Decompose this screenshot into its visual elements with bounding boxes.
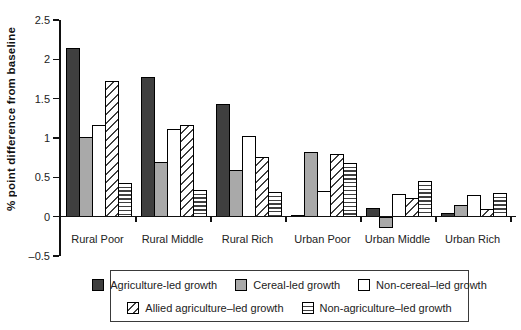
legend-label: Non-cereal–led growth [376, 279, 487, 291]
bar-hlines [193, 190, 207, 218]
y-tick-label: –0.5 [14, 250, 50, 262]
bar-white [167, 129, 181, 218]
y-tick-label: 0 [14, 211, 50, 223]
x-tick [360, 217, 362, 222]
x-tick [210, 217, 212, 222]
x-tick [435, 217, 437, 222]
x-category-label: Urban Poor [283, 233, 363, 245]
bar-white [92, 125, 106, 217]
plot-area: 2.521.510.50–0.5Rural PoorRural MiddleRu… [60, 20, 511, 256]
bar-solid-gray [379, 217, 393, 229]
legend-item: Non-cereal–led growth [358, 279, 487, 291]
bar-hlines [418, 181, 432, 217]
y-tick-label: 2 [14, 53, 50, 65]
y-axis-line [59, 20, 61, 256]
x-tick [285, 217, 287, 222]
legend: Agriculture-led growthCereal-led growthN… [110, 270, 469, 322]
legend-swatch-hlines-icon [302, 302, 314, 314]
legend-row-1: Agriculture-led growthCereal-led growthN… [111, 274, 468, 295]
bar-hlines [343, 163, 357, 217]
bar-white [242, 136, 256, 218]
legend-swatch-white-icon [358, 279, 370, 291]
bar-solid-dark [216, 104, 230, 217]
x-tick [510, 217, 512, 222]
y-tick [53, 137, 59, 139]
y-tick [53, 98, 59, 100]
legend-label: Agriculture-led growth [110, 279, 217, 291]
x-axis-line [59, 216, 516, 218]
legend-item: Agriculture-led growth [92, 279, 217, 291]
bar-diagonal [255, 157, 269, 218]
x-category-label: Urban Middle [358, 233, 438, 245]
bar-solid-dark [141, 77, 155, 217]
legend-row-2: Allied agriculture–led growthNon-agricul… [111, 297, 468, 318]
chart-figure: % point difference from baseline 2.521.5… [0, 0, 521, 330]
bar-solid-gray [229, 170, 243, 217]
y-tick [53, 59, 59, 61]
y-tick [53, 177, 59, 179]
y-tick-label: 1 [14, 132, 50, 144]
y-tick-label: 1.5 [14, 93, 50, 105]
bar-diagonal [330, 154, 344, 218]
x-category-label: Urban Rich [433, 233, 513, 245]
y-tick-label: 0.5 [14, 171, 50, 183]
legend-swatch-diagonal-icon [127, 302, 139, 314]
legend-item: Cereal-led growth [235, 279, 340, 291]
legend-swatch-solid-gray-icon [235, 279, 247, 291]
y-tick-label: 2.5 [14, 14, 50, 26]
y-tick [53, 255, 59, 257]
y-axis-label: % point difference from baseline [5, 18, 17, 220]
x-category-label: Rural Poor [58, 233, 138, 245]
legend-label: Allied agriculture–led growth [145, 302, 283, 314]
legend-label: Cereal-led growth [253, 279, 340, 291]
bar-white [392, 194, 406, 218]
legend-item: Non-agriculture–led growth [302, 302, 452, 314]
x-category-label: Rural Middle [133, 233, 213, 245]
bar-hlines [118, 183, 132, 218]
bar-white [317, 191, 331, 217]
bar-diagonal [405, 198, 419, 218]
bar-solid-gray [79, 137, 93, 217]
legend-swatch-solid-dark-icon [92, 279, 104, 291]
bar-solid-gray [304, 152, 318, 217]
x-category-label: Rural Rich [208, 233, 288, 245]
y-tick [53, 19, 59, 21]
bar-solid-dark [66, 48, 80, 217]
bar-diagonal [180, 125, 194, 217]
bar-white [467, 195, 481, 217]
bar-hlines [268, 192, 282, 217]
x-tick [135, 217, 137, 222]
legend-item: Allied agriculture–led growth [127, 302, 283, 314]
bar-solid-gray [154, 162, 168, 218]
bar-hlines [493, 193, 507, 217]
legend-label: Non-agriculture–led growth [320, 302, 452, 314]
bar-diagonal [105, 81, 119, 217]
